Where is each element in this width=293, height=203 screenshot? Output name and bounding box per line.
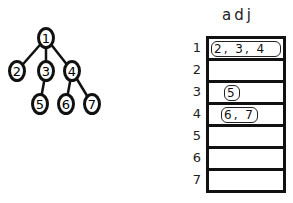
tree-node: 4 [65,62,80,81]
adj-title: adj [222,6,254,24]
adj-list-value: 6, 7 [221,107,258,123]
adj-cell: 2, 3, 4 [209,39,283,61]
adj-list-value: 5 [224,85,240,101]
node-label: 5 [36,97,44,112]
adj-list-value: 2, 3, 4 [211,41,281,57]
tree-nodes: 1 2 3 4 5 6 7 [10,29,100,114]
adjacency-array: 2, 3, 4 5 6, 7 [206,36,286,193]
tree-node: 7 [85,95,100,114]
node-label: 3 [42,64,50,79]
row-index: 3 [192,84,202,99]
row-index: 5 [192,128,202,143]
tree-node: 3 [39,62,54,81]
node-label: 7 [88,97,96,112]
row-index: 2 [192,62,202,77]
adj-cell: 6, 7 [209,105,283,127]
tree-node: 2 [10,62,25,81]
adj-cell [209,61,283,83]
tree-node: 6 [59,95,74,114]
adj-cell [209,127,283,149]
row-index: 4 [192,106,202,121]
node-label: 2 [13,64,21,79]
tree-diagram: 1 2 3 4 5 6 7 [0,0,120,130]
adj-cell [209,171,283,190]
tree-node: 5 [33,95,48,114]
node-label: 4 [68,64,76,79]
adj-cell: 5 [209,83,283,105]
node-label: 6 [62,97,70,112]
tree-node: 1 [39,29,54,48]
row-index: 7 [192,172,202,187]
row-index: 1 [192,40,202,55]
adj-cell [209,149,283,171]
row-index: 6 [192,150,202,165]
node-label: 1 [42,31,50,46]
